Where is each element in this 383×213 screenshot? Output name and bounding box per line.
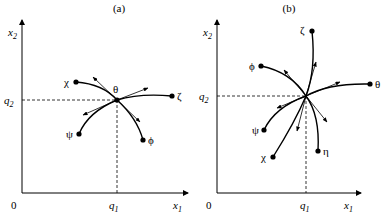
- point-psi: [261, 127, 266, 132]
- point-psi: [76, 131, 81, 136]
- curve-theta: [306, 84, 370, 96]
- point-phi: [140, 137, 145, 142]
- center-point: [114, 97, 119, 102]
- curve-psi: [264, 96, 306, 130]
- origin-label: 0: [206, 199, 212, 211]
- curve-psi: [79, 100, 117, 134]
- tangent-vector: [306, 96, 327, 122]
- label-psi: ψ: [66, 128, 73, 140]
- q1-label: q1: [109, 199, 119, 213]
- label-theta: θ: [375, 78, 380, 90]
- curve-zeta: [306, 31, 313, 96]
- point-eta: [315, 148, 320, 153]
- center-label: θ: [113, 83, 118, 95]
- tangent-vector: [306, 82, 340, 96]
- origin-label: 0: [11, 199, 17, 211]
- x-axis-label: x1: [343, 199, 353, 213]
- panel-b-caption: (b): [283, 2, 296, 15]
- label-phi: ϕ: [249, 60, 255, 72]
- point-zeta: [309, 28, 314, 33]
- point-chi: [73, 79, 78, 84]
- label-chi: χ: [260, 151, 266, 163]
- label-psi: ψ: [252, 124, 259, 136]
- curve-phi: [261, 66, 306, 96]
- panel-b: (b) x2 x1 0 q1 q2 ζ: [199, 2, 380, 213]
- tangent-vector: [306, 62, 316, 96]
- label-phi: ϕ: [148, 134, 154, 146]
- curve-eta: [306, 96, 318, 151]
- label-chi: χ: [63, 76, 69, 88]
- q2-label: q2: [199, 90, 209, 105]
- point-chi: [270, 154, 275, 159]
- diagram-canvas: (a) x2 x1 0 q1 q2 θ χ ζ ψ ϕ: [0, 0, 383, 213]
- y-axis-label: x2: [202, 26, 212, 41]
- point-phi: [258, 63, 263, 68]
- point-theta: [367, 81, 372, 86]
- tangent-vector: [117, 100, 140, 122]
- panel-a: (a) x2 x1 0 q1 q2 θ χ ζ ψ ϕ: [4, 2, 188, 213]
- curve-chi: [273, 96, 306, 157]
- curve-phi: [117, 100, 143, 140]
- x-axis-label: x1: [172, 199, 182, 213]
- q1-label: q1: [300, 199, 310, 213]
- tangent-vector: [83, 100, 117, 115]
- y-axis-label: x2: [7, 26, 17, 41]
- curve-chi: [76, 82, 117, 100]
- tangent-vector: [284, 70, 306, 96]
- label-zeta: ζ: [177, 90, 182, 103]
- label-eta: η: [323, 145, 329, 157]
- panel-a-caption: (a): [113, 2, 126, 15]
- curve-zeta: [117, 95, 172, 100]
- tangent-vector: [117, 88, 148, 100]
- point-zeta: [169, 93, 174, 98]
- q2-label: q2: [4, 94, 14, 109]
- label-zeta: ζ: [300, 24, 305, 37]
